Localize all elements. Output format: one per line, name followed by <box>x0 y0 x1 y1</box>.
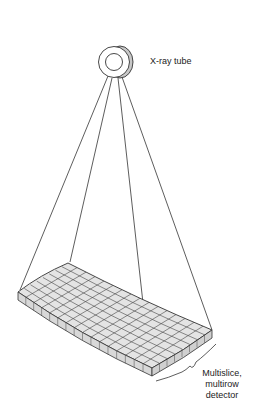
xray-tube-label: X-ray tube <box>150 56 192 67</box>
multirow-detector <box>18 263 212 376</box>
ct-geometry-diagram <box>0 0 257 409</box>
detector-label-line-1: Multislice, <box>190 368 254 379</box>
detector-label-line-2: multirow <box>190 379 254 390</box>
xray-tube-icon <box>99 46 134 78</box>
detector-label-line-3: detector <box>190 390 254 401</box>
detector-label: Multislice, multirow detector <box>190 368 254 401</box>
